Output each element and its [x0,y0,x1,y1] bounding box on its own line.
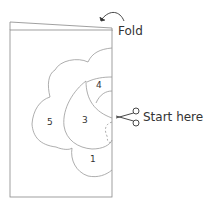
curved-arrow-icon [100,12,124,21]
start-here-label: Start here. [143,110,204,124]
fold-label: Fold [118,24,143,38]
petal-4-number: 4 [96,80,102,90]
petal-1-number: 1 [90,154,96,164]
scissors-icon [116,108,139,126]
petal-5-number: 5 [47,117,53,127]
folded-paper-diagram [0,0,204,199]
petal-3-number: 3 [82,115,88,125]
